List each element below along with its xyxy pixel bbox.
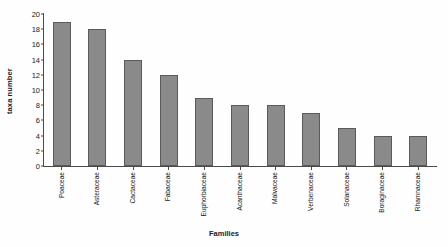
bar-chart: taxa number 02468101214161820 PoaceaeAst…	[0, 0, 448, 247]
x-tick-label-slot: Boraginaceae	[365, 172, 401, 222]
bar	[195, 98, 213, 166]
x-tick	[365, 167, 401, 171]
y-tick-label: 12	[32, 70, 40, 79]
x-tick-label-slot: Verbenaceae	[293, 172, 329, 222]
x-axis-tick-labels: PoaceaeAsteraceaeCactaceaeFabaceaeEuphor…	[44, 172, 436, 222]
x-tick-label: Asteraceae	[94, 172, 101, 205]
y-tick-label: 10	[32, 86, 40, 95]
x-tick	[400, 167, 436, 171]
y-tick-label: 2	[36, 146, 40, 155]
bar-slot	[187, 14, 223, 166]
bar	[302, 113, 320, 166]
x-tick-label: Solanaceae	[344, 172, 351, 207]
x-tick	[329, 167, 365, 171]
bar	[124, 60, 142, 166]
x-tick-label: Malvaceae	[272, 172, 279, 204]
bar-slot	[151, 14, 187, 166]
bar-slot	[293, 14, 329, 166]
x-tick-label: Fabaceae	[165, 172, 172, 201]
x-tick-label-slot: Euphorbiaceae	[187, 172, 223, 222]
x-tick	[151, 167, 187, 171]
x-tick	[115, 167, 151, 171]
bar-slot	[44, 14, 80, 166]
bar-slot	[329, 14, 365, 166]
x-tick-mark	[382, 167, 383, 170]
bar-series	[44, 14, 436, 166]
x-tick	[222, 167, 258, 171]
y-tick-label: 16	[32, 40, 40, 49]
x-tick-label: Boraginaceae	[379, 172, 386, 213]
x-axis-ticks	[44, 167, 436, 171]
bar-slot	[258, 14, 294, 166]
bar	[374, 136, 392, 166]
x-tick	[293, 167, 329, 171]
x-tick-label-slot: Acanthaceae	[222, 172, 258, 222]
x-tick-label-slot: Asteraceae	[80, 172, 116, 222]
bar	[338, 128, 356, 166]
x-tick-label: Euphorbiaceae	[201, 172, 208, 216]
x-axis-title: Families	[0, 229, 448, 238]
x-tick-label: Poaceae	[59, 172, 66, 198]
x-tick-mark	[133, 167, 134, 170]
x-tick-label-slot: Rhamnaceae	[400, 172, 436, 222]
x-tick-mark	[168, 167, 169, 170]
x-tick	[80, 167, 116, 171]
x-tick-mark	[240, 167, 241, 170]
x-tick	[187, 167, 223, 171]
bar-slot	[400, 14, 436, 166]
x-tick	[44, 167, 80, 171]
x-tick-mark	[204, 167, 205, 170]
x-tick-mark	[346, 167, 347, 170]
bar	[53, 22, 71, 166]
x-tick-label-slot: Cactaceae	[115, 172, 151, 222]
bar-slot	[115, 14, 151, 166]
x-tick-mark	[275, 167, 276, 170]
bar	[409, 136, 427, 166]
x-tick-label: Acanthaceae	[237, 172, 244, 211]
y-tick-label: 6	[36, 116, 40, 125]
x-tick-label: Verbenaceae	[308, 172, 315, 211]
bar	[231, 105, 249, 166]
x-tick-label-slot: Fabaceae	[151, 172, 187, 222]
x-tick-mark	[61, 167, 62, 170]
x-tick-label: Rhamnaceae	[415, 172, 422, 211]
plot-area: 02468101214161820	[44, 14, 436, 166]
x-tick-label-slot: Malvaceae	[258, 172, 294, 222]
bar-slot	[222, 14, 258, 166]
x-tick-label-slot: Poaceae	[44, 172, 80, 222]
x-tick-label-slot: Solanaceae	[329, 172, 365, 222]
bar-slot	[80, 14, 116, 166]
x-tick	[258, 167, 294, 171]
y-axis-title: taxa number	[2, 56, 16, 126]
y-tick-label: 20	[32, 10, 40, 19]
x-tick-mark	[97, 167, 98, 170]
bar	[88, 29, 106, 166]
bar-slot	[365, 14, 401, 166]
y-tick-label: 14	[32, 55, 40, 64]
y-tick-label: 8	[36, 101, 40, 110]
y-tick-label: 4	[36, 131, 40, 140]
x-tick-mark	[311, 167, 312, 170]
x-tick-label: Cactaceae	[130, 172, 137, 204]
bar	[160, 75, 178, 166]
bar	[267, 105, 285, 166]
y-tick-label: 0	[36, 162, 40, 171]
y-tick-label: 18	[32, 25, 40, 34]
x-tick-mark	[418, 167, 419, 170]
